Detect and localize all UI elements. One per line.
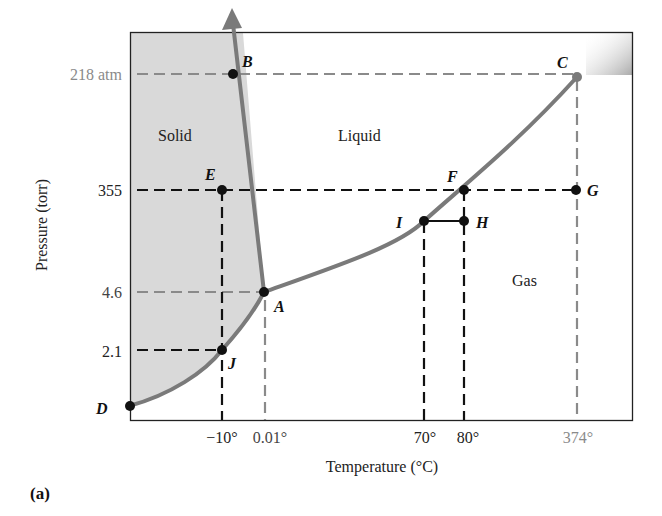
- label-f: F: [446, 168, 458, 185]
- vaporization-curve: [264, 77, 577, 292]
- x-tick-80: 80°: [457, 429, 479, 446]
- label-a: A: [273, 298, 285, 315]
- x-axis-label: Temperature (°C): [326, 458, 438, 476]
- region-liquid: Liquid: [338, 127, 381, 145]
- phase-diagram: A B C D E F G H I J Solid Liquid Gas 218…: [0, 0, 662, 516]
- y-axis-label: Pressure (torr): [33, 179, 51, 271]
- y-tick-4-6: 4.6: [102, 284, 122, 301]
- point-i: [419, 216, 429, 226]
- point-a: [259, 287, 269, 297]
- y-tick-218atm: 218 atm: [70, 66, 123, 83]
- label-j: J: [227, 355, 237, 372]
- panel-label: (a): [30, 484, 50, 503]
- point-c: [572, 72, 582, 82]
- x-tick-0-01: 0.01°: [253, 429, 287, 446]
- x-tick-374: 374°: [563, 429, 593, 446]
- x-tick-minus10: −10°: [206, 429, 237, 446]
- point-d: [125, 401, 135, 411]
- label-g: G: [587, 182, 599, 199]
- label-c: C: [557, 54, 568, 71]
- point-h: [459, 216, 469, 226]
- corner-shade: [586, 33, 633, 75]
- label-i: I: [395, 214, 403, 231]
- label-d: D: [95, 400, 108, 417]
- point-b: [228, 69, 238, 79]
- x-tick-70: 70°: [414, 429, 436, 446]
- arrow-head-icon: [222, 8, 242, 30]
- region-gas: Gas: [512, 272, 537, 289]
- point-j: [217, 345, 227, 355]
- y-tick-355: 355: [98, 182, 122, 199]
- y-tick-2-1: 2.1: [102, 343, 122, 360]
- point-g: [571, 185, 581, 195]
- point-e: [217, 185, 227, 195]
- label-e: E: [204, 166, 216, 183]
- region-solid: Solid: [158, 127, 192, 144]
- label-b: B: [241, 53, 253, 70]
- point-f: [459, 185, 469, 195]
- label-h: H: [475, 214, 489, 231]
